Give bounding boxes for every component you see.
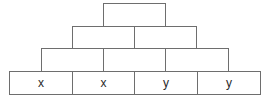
pyramid-cell-base-3: y — [134, 71, 198, 95]
pyramid-cell-row3-2 — [103, 48, 166, 72]
pyramid-cell-base-4: y — [197, 71, 261, 95]
pyramid-cell-base-1: x — [9, 71, 73, 95]
number-pyramid: x x y y — [0, 0, 269, 96]
pyramid-cell-base-2: x — [72, 71, 135, 95]
pyramid-cell-row2-1 — [72, 26, 135, 49]
pyramid-cell-row2-2 — [134, 26, 197, 49]
pyramid-cell-row3-3 — [165, 48, 229, 72]
pyramid-cell-top — [103, 3, 166, 27]
pyramid-cell-row3-1 — [41, 48, 104, 72]
